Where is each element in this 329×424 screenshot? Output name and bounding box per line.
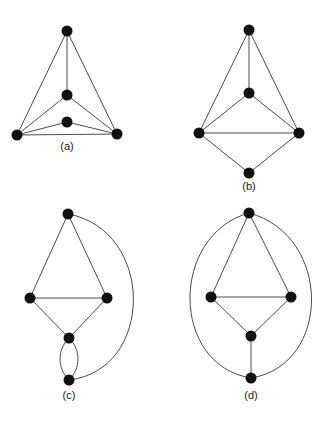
graph-curved-edge (249, 213, 312, 378)
panel-label: (c) (63, 389, 76, 401)
graph-edge (67, 31, 117, 134)
graph-vertex (244, 208, 255, 219)
panel-label: (d) (244, 389, 257, 401)
graph-vertex (12, 130, 23, 141)
graph-vertex (246, 331, 257, 342)
graph-vertex (286, 292, 297, 303)
graph-edge (249, 213, 291, 297)
graph-edge (249, 133, 299, 173)
graph-vertex (62, 90, 73, 101)
graph-vertex (64, 333, 75, 344)
panel-b-graph: (b) (194, 25, 305, 193)
graph-curved-edge (190, 213, 251, 378)
graph-edge (211, 297, 251, 336)
graph-edge (69, 298, 107, 338)
graph-edge (30, 214, 68, 298)
graph-edge (249, 93, 299, 133)
panel-label: (b) (242, 180, 255, 192)
graph-vertex (62, 117, 73, 128)
graph-vertex (246, 373, 257, 384)
graph-curved-edge (69, 338, 78, 380)
panel-c-graph: (c) (25, 209, 134, 402)
graph-edge (68, 214, 107, 298)
graph-vertex (112, 129, 123, 140)
graph-vertex (25, 293, 36, 304)
panel-a-graph: (a) (12, 26, 123, 153)
graph-vertex (63, 209, 74, 220)
graph-edge (17, 31, 67, 135)
graph-edge (17, 134, 117, 135)
graph-vertex (102, 293, 113, 304)
graph-vertex (62, 26, 73, 37)
graph-vertex (244, 88, 255, 99)
graph-vertex (294, 128, 305, 139)
graph-vertex (64, 375, 75, 386)
panel-d-graph: (d) (190, 208, 312, 402)
graph-edge (30, 298, 69, 338)
graph-edge (249, 30, 299, 133)
graph-vertex (244, 25, 255, 36)
graph-edge (199, 30, 249, 133)
graph-curved-edge (60, 338, 69, 380)
graph-vertex (244, 168, 255, 179)
graph-edge (199, 133, 249, 173)
graph-edge (199, 93, 249, 133)
graph-edge (251, 297, 291, 336)
panel-label: (a) (60, 140, 73, 152)
graph-vertex (194, 128, 205, 139)
graph-edge (211, 213, 249, 297)
graph-diagram: (a) (b) (c) (d) (0, 0, 329, 424)
graph-vertex (206, 292, 217, 303)
graph-figure: (a) (b) (c) (d) (0, 0, 329, 424)
